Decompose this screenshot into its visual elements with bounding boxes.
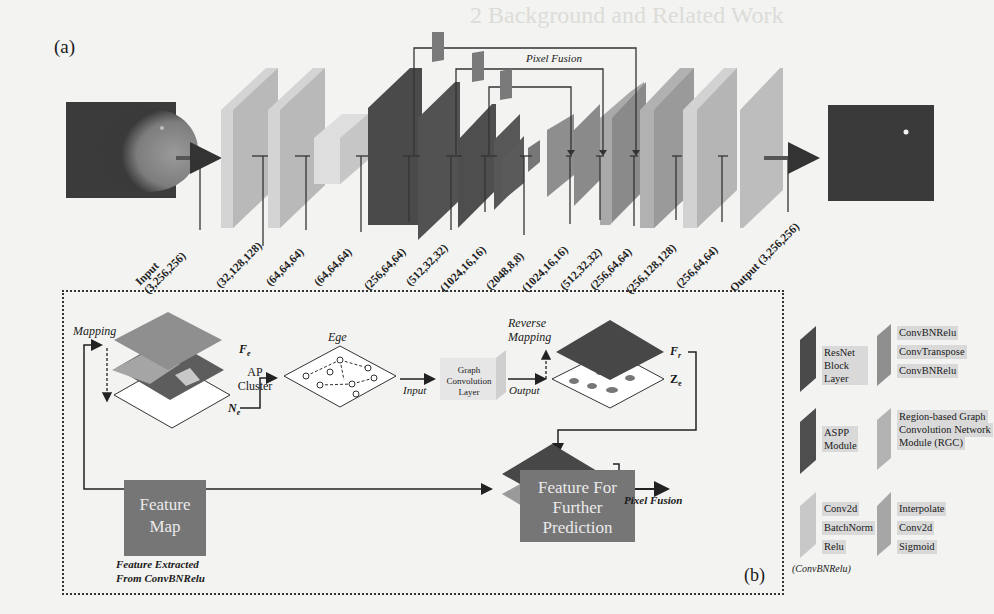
legend-head-2: Conv2d (897, 521, 934, 535)
legend-rgc-1: Region-based Graph (897, 410, 988, 424)
legend-head-3: Sigmoid (897, 540, 937, 554)
legend-convbn-1: Conv2d (822, 502, 859, 516)
legend-convt-2: ConvTranspose (897, 345, 967, 359)
legend-rgc-3: Module (RGC) (897, 436, 965, 450)
legend-convbn-2: BatchNorm (822, 521, 875, 535)
legend-rgc-2: Convolution Network (897, 423, 993, 437)
legend-aspp: ASPP Module (822, 426, 858, 452)
legend-convbn-3: Relu (822, 540, 846, 554)
legend-convt-1: ConvBNRelu (897, 326, 958, 340)
legend-convbn-caption: (ConvBNRelu) (792, 563, 851, 574)
legend-resnet: ResNet Block Layer (822, 346, 868, 385)
legend-head-1: Interpolate (897, 502, 946, 516)
legend-convt-3: ConvBNRelu (897, 364, 958, 378)
